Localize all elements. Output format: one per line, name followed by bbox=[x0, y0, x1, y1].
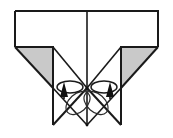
bottom-point bbox=[86, 124, 89, 127]
origami-figure bbox=[0, 0, 173, 138]
origami-diagram-canvas: Origami fold step diagram bbox=[0, 0, 173, 138]
apex-point bbox=[85, 86, 88, 89]
